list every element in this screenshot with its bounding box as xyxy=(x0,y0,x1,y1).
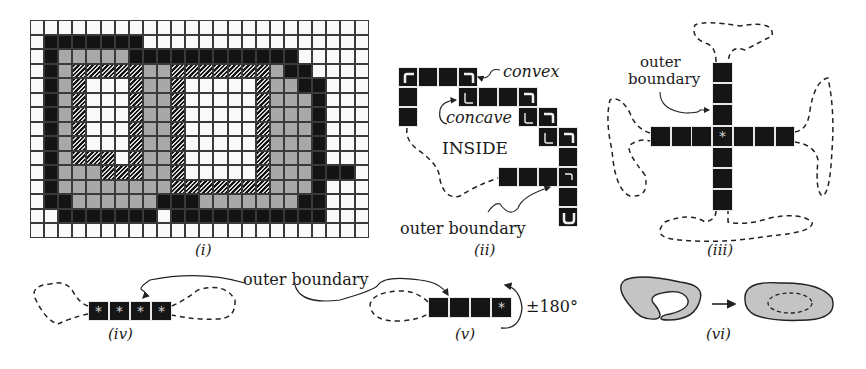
panel-iii-right-loop xyxy=(795,78,833,196)
panel-iii-outer-arrow xyxy=(660,92,709,113)
filled-shape xyxy=(745,283,833,321)
panel-iv-left-loop xyxy=(34,283,88,324)
arrow-to-panel-v xyxy=(295,278,448,301)
panel-v-dashed-loop xyxy=(370,291,428,321)
panel-iii-left-loop xyxy=(608,99,650,196)
rotation-arrow xyxy=(501,285,522,328)
annotation-overlay xyxy=(0,0,866,369)
panel-iii-top-loop xyxy=(694,23,772,62)
panel-ii-dashed-outline xyxy=(407,128,498,197)
c-shape xyxy=(621,277,701,320)
panel-iii-bottom-loop xyxy=(660,211,812,241)
concave-arrow xyxy=(440,100,456,124)
arrow-to-panel-iv xyxy=(141,276,245,298)
panel-iv-right-loop xyxy=(172,288,235,320)
outer-boundary-arrow xyxy=(488,187,550,212)
convex-arrow xyxy=(478,70,500,79)
